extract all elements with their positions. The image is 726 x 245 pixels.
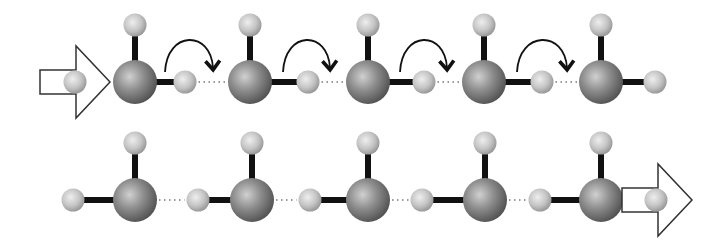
outgoing-proton [645, 189, 668, 212]
proton-transfer-arrow-icon [283, 40, 330, 72]
incoming-proton [64, 71, 87, 94]
hydrogen-atom [124, 14, 147, 37]
hydrogen-atom [124, 132, 147, 155]
hydrogen-atom [531, 71, 554, 94]
oxygen-atom [113, 178, 157, 222]
hydrogen-atom [413, 71, 436, 94]
hydrogen-atom [474, 132, 497, 155]
oxygen-atom [346, 178, 390, 222]
oxygen-atom [230, 178, 274, 222]
oxygen-atom [463, 178, 507, 222]
oxygen-atom [579, 178, 623, 222]
bonds-and-arrows-layer [73, 25, 655, 200]
hydrogen-atom [590, 14, 613, 37]
oxygen-atom [228, 60, 272, 104]
hydrogen-atom [297, 71, 320, 94]
oxygen-atom [113, 60, 157, 104]
hydrogen-atom [357, 132, 380, 155]
oxygen-atom [346, 60, 390, 104]
hydrogen-atom [239, 14, 262, 37]
proton-transfer-arrow-icon [400, 40, 447, 72]
hydrogen-atom [187, 189, 210, 212]
hydrogen-atom [411, 189, 434, 212]
hydrogen-atom [299, 189, 322, 212]
oxygen-atom [579, 60, 623, 104]
hydrogen-atom [529, 189, 552, 212]
proton-hopping-diagram [0, 0, 726, 245]
hydrogen-atom [174, 71, 197, 94]
hydrogen-atom [62, 189, 85, 212]
hydrogen-atom [241, 132, 264, 155]
proton-transfer-arrow-icon [165, 40, 213, 72]
hydrogen-atom [644, 71, 667, 94]
proton-transfer-arrow-icon [517, 40, 567, 72]
oxygen-atom [462, 60, 506, 104]
hydrogen-atom [357, 14, 380, 37]
hydrogen-atom [473, 14, 496, 37]
hydrogen-atom [590, 132, 613, 155]
